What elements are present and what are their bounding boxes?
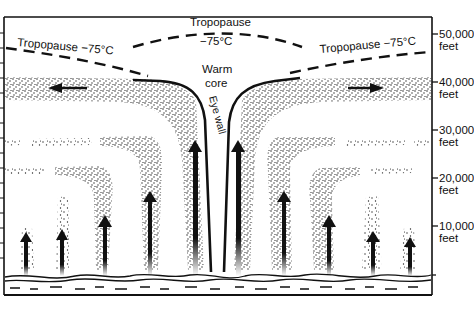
tropopause-right-label: Tropopause −75°C <box>319 35 416 55</box>
eye-wall-label: Eye wall <box>207 94 229 135</box>
altitude-unit: feet <box>439 136 474 148</box>
tropopause-left-label: Tropopause −75°C <box>17 36 114 56</box>
cloud-bands-left <box>5 136 162 270</box>
altitude-label-10000: 10,000 feet <box>439 220 474 244</box>
altitude-label-30000: 30,000 feet <box>439 124 474 148</box>
tropopause-center-title: Tropopause <box>190 16 251 28</box>
tropopause-center-temp: −75°C <box>200 35 232 47</box>
altitude-unit: feet <box>439 40 474 52</box>
altitude-value: 30,000 <box>439 124 474 136</box>
altitude-value: 40,000 <box>439 76 474 88</box>
right-axis-ticks <box>432 34 438 275</box>
altitude-label-50000: 50,000 feet <box>439 28 474 52</box>
altitude-value: 10,000 <box>439 220 474 232</box>
altitude-label-20000: 20,000 feet <box>439 172 474 196</box>
altitude-unit: feet <box>439 88 474 100</box>
cloud-bands-right <box>267 137 430 270</box>
altitude-value: 50,000 <box>439 28 474 40</box>
warm-core-label-line1: Warm <box>202 63 232 75</box>
warm-core-label-line2: core <box>205 77 227 89</box>
altitude-label-40000: 40,000 feet <box>439 76 474 100</box>
altitude-unit: feet <box>439 232 474 244</box>
ocean-surface <box>5 274 431 289</box>
altitude-value: 20,000 <box>439 172 474 184</box>
updraft-arrows <box>20 140 416 276</box>
altitude-unit: feet <box>439 184 474 196</box>
